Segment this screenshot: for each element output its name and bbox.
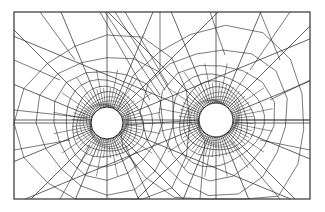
domain-boundary: [14, 12, 310, 199]
left-hole: [91, 107, 123, 139]
mesh-lines: [14, 12, 310, 199]
holes: [91, 103, 233, 139]
mesh-canvas: [0, 0, 325, 212]
right-hole: [199, 103, 233, 137]
mesh-diagram: [0, 0, 325, 212]
